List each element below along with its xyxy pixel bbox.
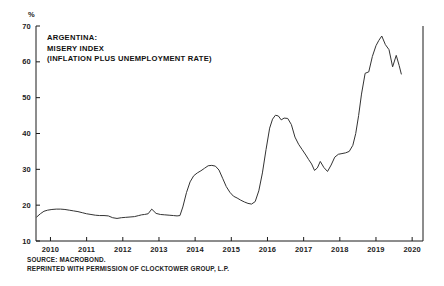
x-axis-tick-label: 2013 xyxy=(144,245,174,254)
x-axis-tick-label: 2015 xyxy=(216,245,246,254)
y-axis-tick-label: 30 xyxy=(15,165,31,174)
y-axis-tick-label: 50 xyxy=(15,93,31,102)
y-axis-tick-label: 60 xyxy=(15,57,31,66)
y-axis-ticks xyxy=(36,26,40,241)
x-axis-tick-label: 2020 xyxy=(397,245,427,254)
chart-title-line-1: ARGENTINA: xyxy=(47,33,212,44)
footnote-source: SOURCE: MACROBOND. xyxy=(27,256,106,263)
x-axis-tick-label: 2018 xyxy=(325,245,355,254)
y-axis-tick-label: 40 xyxy=(15,129,31,138)
x-axis-tick-label: 2012 xyxy=(108,245,138,254)
y-axis-unit-label: % xyxy=(28,10,35,19)
y-axis-tick-label: 20 xyxy=(15,201,31,210)
x-axis-tick-label: 2011 xyxy=(72,245,102,254)
y-axis-tick-label: 70 xyxy=(15,22,31,31)
x-axis-tick-label: 2017 xyxy=(289,245,319,254)
chart-title-line-3: (INFLATION PLUS UNEMPLOYMENT RATE) xyxy=(47,54,212,65)
x-axis-tick-label: 2019 xyxy=(361,245,391,254)
footnote-permission: REPRINTED WITH PERMISSION OF CLOCKTOWER … xyxy=(27,265,229,272)
x-axis-tick-label: 2010 xyxy=(35,245,65,254)
chart-title-line-2: MISERY INDEX xyxy=(47,44,212,55)
chart-title: ARGENTINA: MISERY INDEX (INFLATION PLUS … xyxy=(47,33,212,65)
x-axis-tick-label: 2016 xyxy=(252,245,282,254)
chart-figure: % ARGENTINA: MISERY INDEX (INFLATION PLU… xyxy=(0,0,444,286)
x-axis-tick-label: 2014 xyxy=(180,245,210,254)
x-axis-ticks xyxy=(50,237,412,241)
y-axis-tick-label: 10 xyxy=(15,237,31,246)
